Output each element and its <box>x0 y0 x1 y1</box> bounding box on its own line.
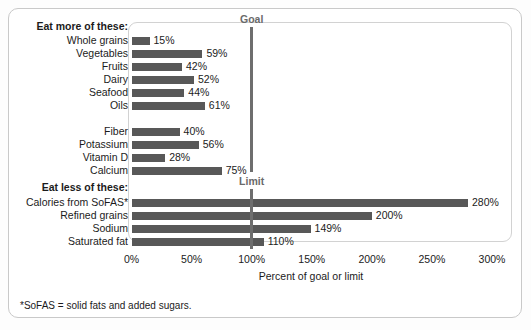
table-row: Refined grains200% <box>14 209 514 222</box>
bar <box>132 37 150 45</box>
table-row: Potassium56% <box>14 138 514 151</box>
group-heading-label: Eat less of these: <box>14 181 128 194</box>
bar <box>132 76 194 84</box>
bar <box>132 102 205 110</box>
goal-line-label: Goal <box>240 13 263 25</box>
category-label: Vitamin D <box>14 151 128 164</box>
bar-value-label: 28% <box>169 151 190 164</box>
x-tick-label: 150% <box>298 253 325 265</box>
category-label: Fiber <box>14 125 128 138</box>
chart-figure: Eat more of these:Whole grains15%Vegetab… <box>0 0 531 330</box>
category-label: Saturated fat <box>14 235 128 248</box>
bar <box>132 225 311 233</box>
bar-value-label: 59% <box>206 47 227 60</box>
bar <box>132 50 203 58</box>
chart-footnote: *SoFAS = solid fats and added sugars. <box>20 300 192 311</box>
table-row: Fruits42% <box>14 60 514 73</box>
bar-value-label: 42% <box>186 60 207 73</box>
bar-value-label: 200% <box>376 209 403 222</box>
bar <box>132 141 199 149</box>
category-label: Oils <box>14 99 128 112</box>
x-tick-label: 100% <box>238 253 265 265</box>
category-label: Sodium <box>14 222 128 235</box>
category-label: Fruits <box>14 60 128 73</box>
limit-line-label: Limit <box>239 175 264 187</box>
x-axis-ticks: 0%50%100%150%200%250%300% <box>0 253 531 269</box>
table-row: Seafood44% <box>14 86 514 99</box>
x-tick-label: 250% <box>418 253 445 265</box>
category-label: Calcium <box>14 164 128 177</box>
x-tick-label: 200% <box>358 253 385 265</box>
bar <box>132 89 185 97</box>
table-row: Calories from SoFAS*280% <box>14 196 514 209</box>
bar-value-label: 61% <box>209 99 230 112</box>
table-row: Fiber40% <box>14 125 514 138</box>
table-row: Whole grains15% <box>14 34 514 47</box>
group-heading: Eat more of these: <box>14 20 514 33</box>
bar <box>132 167 222 175</box>
bar-value-label: 280% <box>472 196 499 209</box>
bar-value-label: 52% <box>198 73 219 86</box>
bar-value-label: 56% <box>203 138 224 151</box>
bar <box>132 238 264 246</box>
category-label: Whole grains <box>14 34 128 47</box>
bar <box>132 128 180 136</box>
category-label: Seafood <box>14 86 128 99</box>
bar-value-label: 40% <box>184 125 205 138</box>
table-row: Vitamin D28% <box>14 151 514 164</box>
category-label: Refined grains <box>14 209 128 222</box>
category-label: Potassium <box>14 138 128 151</box>
bar-value-label: 149% <box>315 222 342 235</box>
group-heading-label: Eat more of these: <box>14 20 128 33</box>
category-label: Calories from SoFAS* <box>14 196 128 209</box>
x-tick-label: 0% <box>124 253 139 265</box>
table-row: Saturated fat110% <box>14 235 514 248</box>
bar <box>132 154 166 162</box>
bar <box>132 199 468 207</box>
bar-value-label: 15% <box>154 34 175 47</box>
x-tick-label: 300% <box>479 253 506 265</box>
table-row: Oils61% <box>14 99 514 112</box>
bar-value-label: 44% <box>188 86 209 99</box>
bar-value-label: 110% <box>268 235 294 248</box>
category-label: Vegetables <box>14 47 128 60</box>
table-row: Dairy52% <box>14 73 514 86</box>
bar <box>132 63 182 71</box>
x-axis-title: Percent of goal or limit <box>259 270 363 282</box>
category-label: Dairy <box>14 73 128 86</box>
table-row: Sodium149% <box>14 222 514 235</box>
goal-line <box>250 27 253 172</box>
table-row: Vegetables59% <box>14 47 514 60</box>
limit-line <box>250 189 253 249</box>
x-tick-label: 50% <box>181 253 202 265</box>
